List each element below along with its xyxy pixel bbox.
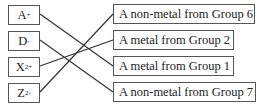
line-z-to-group6 [40, 14, 113, 92]
ion-symbol: X [16, 60, 25, 75]
ion-symbol: D [18, 34, 27, 49]
line-d-to-group7 [40, 40, 113, 92]
description-label: A metal from Group 2 [119, 33, 230, 48]
description-label: A metal from Group 1 [119, 59, 230, 74]
description-box-group7: A non-metal from Group 7 [113, 82, 256, 102]
ion-box-a: A+ [8, 5, 40, 25]
description-label: A non-metal from Group 6 [119, 7, 253, 22]
line-a-to-group1 [40, 14, 113, 66]
ion-box-z: Z2- [8, 83, 40, 103]
ion-symbol: A [18, 8, 27, 23]
description-label: A non-metal from Group 7 [119, 85, 253, 100]
description-box-group2: A metal from Group 2 [113, 30, 234, 50]
description-box-group6: A non-metal from Group 6 [113, 4, 255, 24]
ion-symbol: Z [17, 86, 25, 101]
description-box-group1: A metal from Group 1 [113, 56, 234, 76]
ion-box-d: D- [8, 31, 40, 51]
ion-box-x: X2+ [8, 57, 40, 77]
